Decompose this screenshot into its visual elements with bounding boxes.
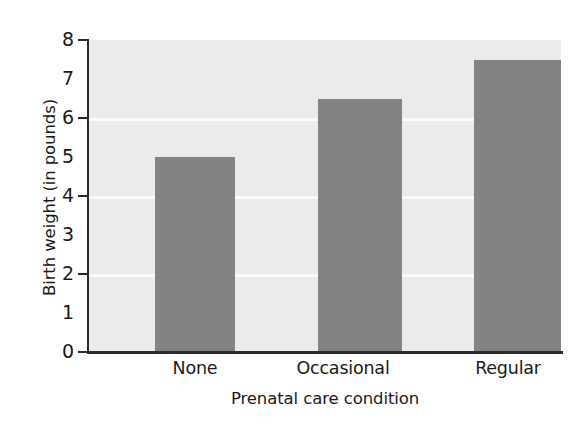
bar-regular [474,60,561,353]
plot-area [89,40,561,352]
y-tick-label: 1 [48,303,74,322]
y-tick-label: 8 [48,30,74,49]
x-tick-label-occasional: Occasional [258,358,428,378]
x-tick-label-regular: Regular [443,358,573,378]
y-tick-label: 3 [48,225,74,244]
x-axis-line [87,351,563,354]
x-tick-label-none: None [135,358,255,378]
y-tick-label: 2 [48,264,74,283]
x-axis-title: Prenatal care condition [89,389,561,408]
bar-occasional [318,99,402,353]
y-axis-tick-labels: 8 7 6 5 4 3 2 1 0 [44,0,74,430]
y-tick-label: 4 [48,186,74,205]
y-tick-label: 5 [48,147,74,166]
y-tick-label: 0 [48,342,74,361]
bar-chart-figure: Birth weight (in pounds) 8 7 6 5 4 3 2 1… [0,0,588,430]
y-axis-line [87,39,89,353]
bar-none [155,157,235,352]
y-tick-label: 6 [48,108,74,127]
y-tick-label: 7 [48,69,74,88]
